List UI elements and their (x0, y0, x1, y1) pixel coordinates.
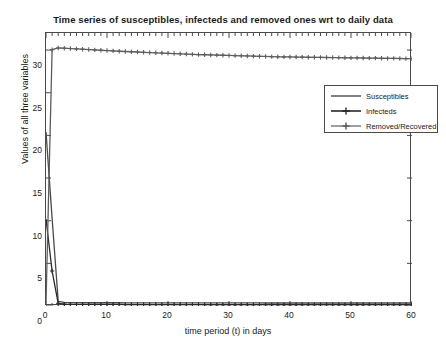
y-tick-5: 5 (16, 273, 42, 283)
x-tick-10: 10 (86, 310, 126, 320)
legend-label-susceptibles: Susceptibles (366, 92, 409, 101)
x-axis-tick-labels: 0 10 20 30 40 50 60 (45, 310, 411, 324)
plot-canvas (46, 33, 412, 306)
y-tick-15: 15 (16, 188, 42, 198)
x-tick-40: 40 (269, 310, 309, 320)
chart-legend: Susceptibles Infecteds Removed/Recovered (324, 85, 438, 133)
chart-title: Time series of susceptibles, infecteds a… (0, 14, 446, 25)
legend-entry-removed: Removed/Recovered (325, 118, 439, 134)
x-tick-0: 0 (25, 310, 65, 320)
x-tick-50: 50 (330, 310, 370, 320)
axis-ticks (46, 33, 412, 306)
y-tick-20: 20 (16, 145, 42, 155)
y-tick-30: 30 (16, 60, 42, 70)
chart-figure: Time series of susceptibles, infecteds a… (0, 0, 446, 351)
x-axis-label: time period (t) in days (45, 326, 411, 336)
legend-label-removed: Removed/Recovered (366, 122, 436, 131)
x-tick-30: 30 (208, 310, 248, 320)
legend-swatch-infecteds (330, 105, 362, 117)
plot-area (45, 32, 411, 305)
legend-entry-susceptibles: Susceptibles (325, 88, 439, 104)
legend-swatch-susceptibles (330, 90, 362, 102)
y-tick-10: 10 (16, 231, 42, 241)
legend-label-infecteds: Infecteds (366, 107, 396, 116)
legend-entry-infecteds: Infecteds (325, 103, 439, 119)
y-axis-tick-labels: 30 25 20 15 10 5 0 (12, 32, 42, 305)
y-tick-25: 25 (16, 103, 42, 113)
x-tick-20: 20 (147, 310, 187, 320)
x-tick-60: 60 (391, 310, 431, 320)
legend-swatch-removed (330, 120, 362, 132)
